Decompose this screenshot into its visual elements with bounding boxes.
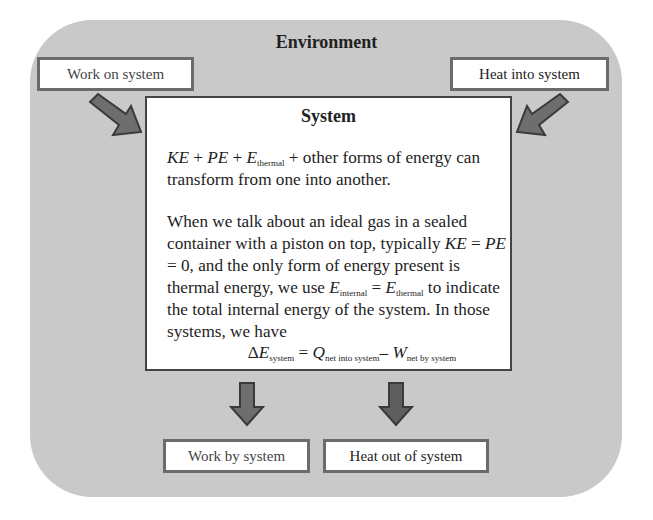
arrow-down-right-icon <box>88 92 148 138</box>
work-on-system-box: Work on system <box>37 57 194 91</box>
system-box: System KE + PE + Ethermal + other forms … <box>145 96 512 371</box>
energy-forms-paragraph: KE + PE + Ethermal + other forms of ener… <box>167 147 507 191</box>
ideal-gas-paragraph: When we talk about an ideal gas in a sea… <box>167 211 507 343</box>
heat-into-system-box: Heat into system <box>450 57 609 91</box>
system-description: KE + PE + Ethermal + other forms of ener… <box>167 147 507 364</box>
arrow-down-left-icon <box>510 92 570 138</box>
work-on-system-label: Work on system <box>67 66 164 83</box>
arrow-down-work-icon <box>229 381 265 427</box>
heat-out-of-system-box: Heat out of system <box>323 439 489 473</box>
heat-into-system-label: Heat into system <box>479 66 580 83</box>
system-title: System <box>147 106 510 127</box>
environment-title: Environment <box>0 32 653 53</box>
heat-out-of-system-label: Heat out of system <box>350 448 463 465</box>
work-by-system-label: Work by system <box>188 448 285 465</box>
arrow-down-heat-icon <box>378 381 414 427</box>
work-by-system-box: Work by system <box>163 439 310 473</box>
first-law-equation: ΔEsystem = Qnet into system– Wnet by sys… <box>167 342 507 364</box>
